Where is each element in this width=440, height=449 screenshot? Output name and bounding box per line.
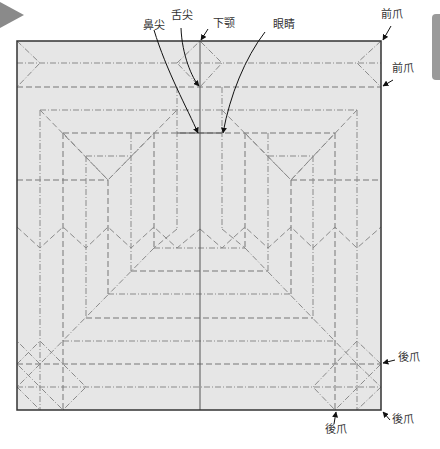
hind-claw-1-arrow — [383, 360, 395, 363]
label-nose-tip: 鼻尖 — [143, 20, 165, 32]
lower-jaw-arrow — [201, 29, 208, 40]
paper-square — [17, 41, 381, 410]
label-hind-claw-2: 後爪 — [325, 424, 347, 436]
label-front-claw-2: 前爪 — [392, 63, 414, 75]
label-front-claw-1: 前爪 — [381, 9, 403, 21]
front-claw-2-arrow — [383, 80, 393, 86]
front-claw-1-arrow — [383, 26, 391, 40]
label-hind-claw-1: 後爪 — [398, 352, 420, 364]
hind-claw-3-arrow — [383, 412, 390, 420]
label-lower-jaw: 下颚 — [213, 18, 235, 30]
label-eyes: 眼睛 — [273, 19, 295, 31]
label-tongue-tip: 舌尖 — [171, 10, 193, 22]
label-hind-claw-3: 後爪 — [392, 414, 414, 426]
